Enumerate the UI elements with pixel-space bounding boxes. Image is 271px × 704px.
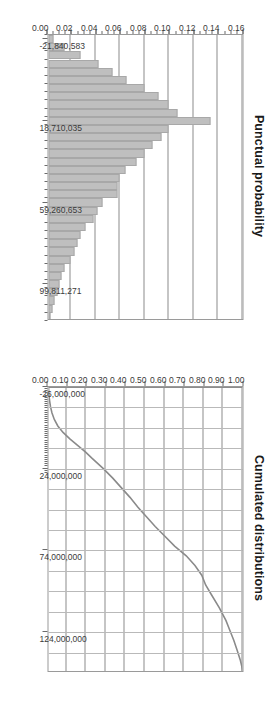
y-tick-minor (58, 31, 59, 34)
histogram-bar (48, 68, 112, 76)
gridline (104, 387, 105, 671)
y-tick-minor (205, 31, 206, 34)
gridline (168, 35, 169, 319)
gridline (65, 387, 66, 671)
x-tick-minor (44, 410, 47, 411)
x-tick-minor (44, 442, 47, 443)
x-tick-minor (44, 34, 47, 35)
y-tick-minor (230, 31, 231, 34)
x-tick-minor (44, 399, 47, 400)
x-tick-minor (44, 427, 47, 428)
gridline-minor (48, 448, 242, 449)
x-tick-minor (44, 238, 47, 239)
histogram-bar (48, 92, 158, 100)
y-tick-minor (175, 31, 176, 34)
x-tick-minor (44, 390, 47, 391)
x-tick-minor (44, 448, 47, 449)
y-tick-minor (71, 31, 72, 34)
x-tick-minor (44, 407, 47, 408)
figure-container: Punctual probability 0.000.020.040.060.0… (0, 0, 271, 704)
histogram-bar (48, 239, 77, 247)
histogram-bar (48, 296, 54, 304)
x-tick-minor (44, 457, 47, 458)
x-tick-minor (44, 403, 47, 404)
gridline-minor (48, 571, 242, 572)
gridline (143, 387, 144, 671)
histogram-bar (48, 305, 52, 313)
x-tick-minor (44, 67, 47, 68)
gridline (143, 35, 144, 319)
gridline-minor (48, 469, 242, 470)
histogram-bar (48, 313, 50, 320)
x-tick-minor (44, 463, 47, 464)
y-tick-minor (107, 31, 108, 34)
histogram-bar (48, 133, 161, 141)
x-tick-minor (44, 263, 47, 264)
histogram-bar (48, 141, 152, 149)
y-tick-minor (193, 31, 194, 34)
histogram-bar (48, 215, 93, 223)
x-tick-minor (44, 165, 47, 166)
histogram-bar (48, 51, 80, 59)
histogram-bar (48, 223, 85, 231)
x-tick-minor (44, 157, 47, 158)
x-tick-minor (44, 99, 47, 100)
plot-area-punctual (47, 34, 243, 320)
x-tick (42, 283, 47, 284)
x-tick (42, 202, 47, 203)
y-tick-label: 1.00 (198, 375, 244, 385)
x-tick-minor (44, 452, 47, 453)
x-tick-minor (44, 397, 47, 398)
y-tick-minor (138, 31, 139, 34)
gridline (192, 35, 193, 319)
x-tick-minor (44, 412, 47, 413)
gridline-minor (48, 428, 242, 429)
x-tick-minor (44, 446, 47, 447)
y-tick-minor (211, 31, 212, 34)
gridline-minor (48, 653, 242, 654)
x-tick-minor (44, 440, 47, 441)
y-tick-minor (101, 31, 102, 34)
x-tick-label: 99,811,271 (39, 286, 81, 296)
x-tick (42, 38, 47, 39)
gridline-minor (48, 612, 242, 613)
y-tick-minor (64, 31, 65, 34)
histogram-bar (48, 100, 168, 108)
x-tick-minor (44, 222, 47, 223)
histogram-bar (48, 174, 119, 182)
x-tick-minor (44, 312, 47, 313)
x-tick-minor (44, 197, 47, 198)
x-tick-minor (44, 189, 47, 190)
histogram-bar (48, 76, 126, 84)
x-tick-minor (44, 455, 47, 456)
x-tick-minor (44, 255, 47, 256)
x-tick-minor (44, 450, 47, 451)
chart-cumulated-distributions: Cumulated distributions 0.000.100.200.30… (0, 352, 271, 704)
gridline-minor (48, 407, 242, 408)
histogram-bar (48, 256, 70, 264)
x-tick-minor (44, 75, 47, 76)
y-tick-minor (169, 31, 170, 34)
x-tick-label: 74,000,000 (39, 552, 82, 562)
y-tick-minor (113, 31, 114, 34)
x-tick-label: 124,000,000 (39, 634, 86, 644)
x-tick-minor (44, 173, 47, 174)
gridline-minor (48, 530, 242, 531)
x-tick-minor (44, 83, 47, 84)
y-tick-minor (144, 31, 145, 34)
x-tick (42, 549, 47, 550)
y-tick-minor (242, 31, 243, 34)
x-tick-minor (44, 470, 47, 471)
x-tick-minor (44, 472, 47, 473)
x-tick-minor (44, 431, 47, 432)
gridline (182, 387, 183, 671)
y-tick-minor (89, 31, 90, 34)
x-tick-label: -21,840,583 (39, 41, 84, 51)
x-tick-minor (44, 386, 47, 387)
x-tick-minor (44, 59, 47, 60)
x-tick-minor (44, 468, 47, 469)
gridline (217, 35, 218, 319)
x-tick-minor (44, 405, 47, 406)
y-tick-minor (77, 31, 78, 34)
y-tick-minor (187, 31, 188, 34)
